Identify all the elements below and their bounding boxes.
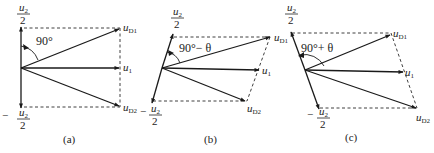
label-bottom-fraction: − u2 2 <box>307 105 330 130</box>
vector-u1 <box>162 68 259 70</box>
vector-u1 <box>305 70 403 72</box>
svg-text:2: 2 <box>152 115 158 127</box>
caption-c: (c) <box>345 131 358 144</box>
svg-text:u2: u2 <box>151 102 161 116</box>
svg-text:2: 2 <box>20 14 26 26</box>
label-u1: u1 <box>405 66 415 80</box>
vector-ud2 <box>305 70 416 108</box>
label-u1: u1 <box>262 64 272 78</box>
caption-b: (b) <box>204 133 217 146</box>
label-top-fraction: u2 2 <box>17 1 30 26</box>
panel-a: 90° uD1 u1 uD2 u2 2 − u2 2 (a) <box>2 1 138 146</box>
vector-u2-half-down <box>152 68 162 103</box>
vector-ud2 <box>21 68 119 106</box>
label-ud2: uD2 <box>247 102 262 116</box>
svg-text:2: 2 <box>288 14 294 26</box>
panel-c: 90°+ θ uD1 u1 uD2 u2 2 − u2 2 (c) <box>285 1 431 144</box>
angle-arc <box>21 46 38 60</box>
svg-text:u2: u2 <box>173 5 183 19</box>
label-bottom-fraction: − u2 2 <box>2 106 30 131</box>
svg-text:u2: u2 <box>19 1 29 15</box>
label-ud1: uD1 <box>274 31 289 45</box>
angle-label: 90° <box>36 34 53 48</box>
vector-u2-half-up <box>162 34 173 68</box>
svg-text:−: − <box>140 105 146 117</box>
label-top-fraction: u2 2 <box>285 1 298 26</box>
svg-text:u2: u2 <box>319 105 329 119</box>
svg-text:u2: u2 <box>19 106 29 120</box>
svg-text:−: − <box>307 108 313 120</box>
angle-label: 90°− θ <box>179 41 212 55</box>
angle-arrow-icon <box>23 44 29 50</box>
vector-ud2 <box>162 68 245 101</box>
label-ud1: uD1 <box>393 27 408 41</box>
label-top-fraction: u2 2 <box>171 5 184 30</box>
caption-a: (a) <box>63 133 76 146</box>
svg-text:−: − <box>2 109 8 121</box>
panel-b: 90°− θ uD1 u1 uD2 u2 2 − u2 2 (b) <box>140 5 289 146</box>
svg-text:u2: u2 <box>287 1 297 15</box>
label-ud2: uD2 <box>416 111 431 125</box>
label-bottom-fraction: − u2 2 <box>140 102 162 127</box>
phasor-diagram-figure: 90° uD1 u1 uD2 u2 2 − u2 2 (a) 90°− θ uD… <box>0 0 434 153</box>
angle-arrow-icon <box>168 50 174 56</box>
angle-label: 90°+ θ <box>301 41 334 55</box>
svg-text:2: 2 <box>174 18 180 30</box>
svg-text:2: 2 <box>20 119 26 131</box>
label-ud1: uD1 <box>123 21 138 35</box>
vector-u2-half-down <box>305 70 319 109</box>
label-u1: u1 <box>123 61 133 75</box>
dashed-right-line <box>391 33 417 108</box>
svg-text:2: 2 <box>320 118 326 130</box>
label-ud2: uD2 <box>123 101 138 115</box>
